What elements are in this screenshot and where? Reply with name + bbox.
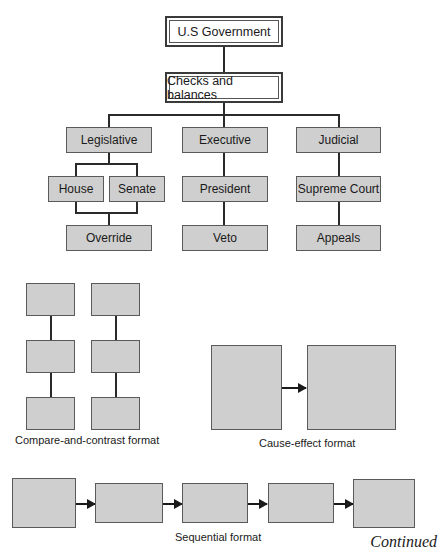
node-supreme-court: Supreme Court: [296, 176, 381, 202]
sequence-box: [353, 479, 415, 528]
sequence-box: [182, 483, 248, 523]
connector: [223, 153, 225, 176]
node-label: Override: [86, 231, 132, 245]
cause-effect-caption: Cause-effect format: [259, 437, 355, 449]
connector: [223, 114, 225, 127]
compare-box: [91, 340, 140, 373]
arrow-icon: [282, 387, 306, 389]
connector: [338, 202, 340, 225]
connector: [338, 114, 340, 127]
node-executive: Executive: [182, 127, 268, 153]
connector: [50, 373, 52, 397]
connector: [75, 163, 77, 176]
node-label: Executive: [199, 133, 251, 147]
node-override: Override: [66, 225, 152, 251]
continued-label: Continued: [370, 533, 437, 551]
connector: [136, 163, 138, 176]
compare-box: [91, 397, 140, 430]
connector: [108, 114, 110, 127]
arrow-icon: [334, 503, 353, 505]
effect-box: [307, 345, 396, 430]
node-label: U.S Government: [177, 25, 270, 39]
node-house: House: [48, 176, 104, 202]
node-checks-and-balances: Checks and balances: [165, 72, 283, 103]
node-label: Judicial: [318, 133, 358, 147]
arrow-icon: [76, 503, 95, 505]
arrow-icon: [248, 503, 267, 505]
node-label: President: [200, 182, 251, 196]
compare-contrast-caption: Compare-and-contrast format: [15, 434, 159, 446]
sequence-box: [95, 483, 163, 523]
connector: [108, 212, 110, 225]
sequence-box: [12, 478, 76, 528]
cause-box: [211, 345, 282, 430]
sequential-caption: Sequential format: [175, 531, 261, 543]
node-president: President: [182, 176, 268, 202]
compare-box: [26, 340, 75, 373]
connector: [115, 316, 117, 340]
compare-box: [26, 397, 75, 430]
node-label: Legislative: [81, 133, 138, 147]
node-label: Appeals: [317, 231, 360, 245]
connector: [338, 153, 340, 176]
connector: [75, 212, 138, 214]
compare-box: [26, 283, 75, 316]
compare-box: [91, 283, 140, 316]
connector: [223, 47, 225, 72]
node-appeals: Appeals: [296, 225, 381, 251]
node-label: Senate: [118, 182, 156, 196]
node-veto: Veto: [182, 225, 268, 251]
node-us-government: U.S Government: [165, 16, 283, 47]
connector: [223, 202, 225, 225]
node-label: Veto: [213, 231, 237, 245]
node-label: Supreme Court: [298, 182, 379, 196]
node-label: Checks and balances: [167, 74, 281, 102]
node-legislative: Legislative: [66, 127, 152, 153]
node-label: House: [59, 182, 94, 196]
node-senate: Senate: [109, 176, 165, 202]
sequence-box: [268, 483, 334, 523]
connector: [75, 163, 138, 165]
connector: [50, 316, 52, 340]
connector: [115, 373, 117, 397]
arrow-icon: [163, 503, 182, 505]
node-judicial: Judicial: [296, 127, 381, 153]
